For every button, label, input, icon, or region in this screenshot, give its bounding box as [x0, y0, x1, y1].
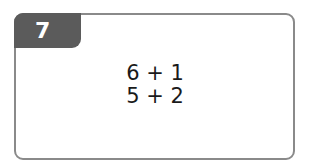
problem-number: 7: [35, 18, 50, 43]
problem-number-tab: 7: [14, 13, 81, 48]
expression: 5 + 2: [0, 85, 310, 108]
expression: 6 + 1: [0, 62, 310, 85]
expression-list: 6 + 1 5 + 2: [0, 62, 310, 108]
